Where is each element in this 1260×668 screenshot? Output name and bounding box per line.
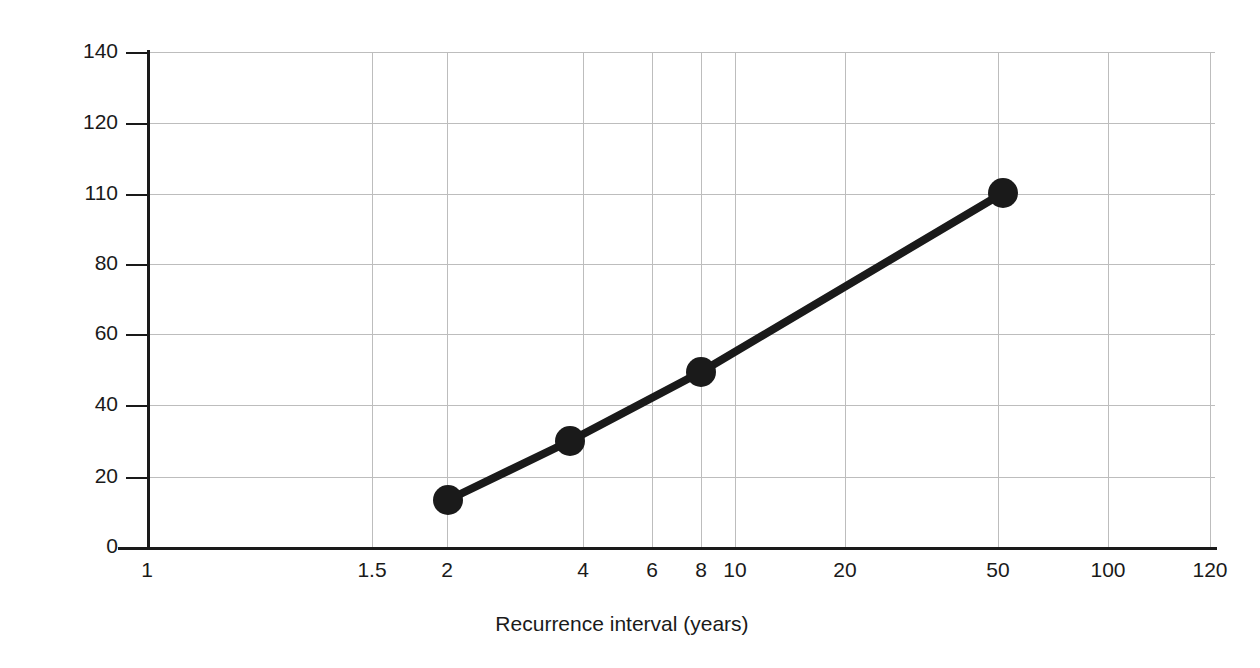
gridline-horizontal — [147, 52, 1215, 53]
gridline-vertical — [735, 52, 736, 547]
gridline-vertical — [845, 52, 846, 547]
y-axis-tick-label: 40 — [48, 392, 118, 416]
x-axis-tick-label: 10 — [723, 558, 746, 582]
data-series-line — [448, 193, 1003, 500]
data-point-marker — [988, 178, 1018, 208]
data-point-marker — [433, 485, 463, 515]
y-axis-tick-mark — [126, 194, 148, 196]
x-axis-tick-label: 1.5 — [357, 558, 386, 582]
y-axis-tick-mark — [126, 123, 148, 125]
gridline-horizontal — [147, 405, 1215, 406]
x-axis-tick-label: 1 — [141, 558, 153, 582]
data-point-marker — [555, 426, 585, 456]
x-axis-tick-label: 6 — [646, 558, 658, 582]
gridline-vertical — [583, 52, 584, 547]
x-axis-tick-label: 100 — [1090, 558, 1125, 582]
x-axis-tick-label: 50 — [986, 558, 1009, 582]
y-axis-tick-label: 80 — [48, 251, 118, 275]
y-axis-tick-mark — [126, 334, 148, 336]
gridline-horizontal — [147, 334, 1215, 335]
y-axis-tick-label: 20 — [48, 464, 118, 488]
x-axis-tick-label: 120 — [1192, 558, 1227, 582]
y-axis-tick-label: 0 — [48, 534, 118, 558]
y-axis-line — [147, 50, 150, 549]
y-axis-tick-mark — [126, 264, 148, 266]
gridline-vertical — [1108, 52, 1109, 547]
y-axis-tick-mark — [126, 52, 148, 54]
data-point-markers — [433, 178, 1018, 515]
gridline-vertical — [1210, 52, 1211, 547]
gridline-vertical — [701, 52, 702, 547]
gridline-horizontal — [147, 123, 1215, 124]
gridline-vertical — [998, 52, 999, 547]
x-axis-line — [118, 547, 1217, 550]
x-axis-tick-label: 2 — [441, 558, 453, 582]
gridline-horizontal — [147, 477, 1215, 478]
x-axis-title-text: Recurrence interval (years) — [495, 612, 748, 636]
y-axis-tick-mark — [126, 477, 148, 479]
y-axis-tick-label: 60 — [48, 321, 118, 345]
y-axis-tick-label: 120 — [48, 110, 118, 134]
x-axis-tick-label: 4 — [577, 558, 589, 582]
y-axis-tick-label: 110 — [48, 181, 118, 205]
gridline-vertical — [447, 52, 448, 547]
gridline-vertical — [652, 52, 653, 547]
x-axis-tick-label: 8 — [695, 558, 707, 582]
x-axis-tick-label: 20 — [833, 558, 856, 582]
x-axis-title: Recurrence interval (years) — [0, 612, 1260, 636]
chart-figure: Discharge (1000s ft3/sec) Recurrence int… — [0, 0, 1260, 668]
gridline-vertical — [372, 52, 373, 547]
y-axis-tick-label: 140 — [48, 39, 118, 63]
gridline-horizontal — [147, 264, 1215, 265]
y-axis-tick-mark — [126, 405, 148, 407]
gridline-horizontal — [147, 194, 1215, 195]
